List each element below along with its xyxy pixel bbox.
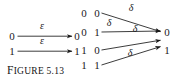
right-arrow-11-to-1	[102, 47, 161, 65]
right-arrow-10-to-1	[102, 40, 161, 50]
figure-caption: FIGURE 5.13	[7, 64, 64, 76]
figure-container: 0 1 0 1 ε ε 0 0 1 1 0 1 0 1 0 1	[0, 0, 174, 79]
right-arrow-01-to-0	[102, 31, 161, 32]
right-arrow-00-to-0	[102, 13, 161, 32]
caption-number: 5.13	[47, 66, 65, 76]
caption-word: IGURE	[14, 66, 44, 76]
caption-lead-letter: F	[7, 64, 14, 76]
